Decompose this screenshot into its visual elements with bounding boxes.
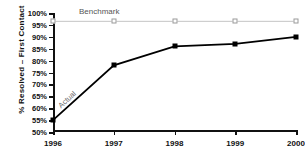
data-point-actual-1999 [233,41,238,46]
data-point-actual-1998 [172,44,177,49]
y-tick-label: 70% [32,80,47,89]
series-line-actual [53,37,296,120]
x-tick-label: 1999 [226,139,244,148]
data-point-benchmark-1997 [111,19,116,24]
x-tick-label: 1996 [44,139,62,148]
y-tick-label: 90% [32,32,47,41]
y-tick-label: 85% [32,44,47,53]
y-tick-label: 75% [32,68,47,77]
plot-area: 50%55%60%65%70%75%80%85%90%95%100% 19961… [53,13,296,132]
data-point-benchmark-1998 [172,19,177,24]
data-point-benchmark-2000 [294,19,299,24]
y-tick-label: 60% [32,104,47,113]
y-tick-label: 50% [32,128,47,137]
y-tick-label: 55% [32,116,47,125]
x-tick-mark [296,130,298,135]
x-tick-label: 1997 [105,139,123,148]
chart-container: % Resolved – First Contact 50%55%60%65%7… [0,0,305,157]
y-axis-title: % Resolved – First Contact [17,0,26,128]
y-tick-label: 80% [32,56,47,65]
data-point-actual-1997 [111,63,116,68]
y-tick-label: 65% [32,92,47,101]
data-point-actual-2000 [294,34,299,39]
data-point-actual-1996 [51,118,56,123]
data-point-benchmark-1999 [233,19,238,24]
data-point-benchmark-1996 [51,19,56,24]
y-tick-label: 100% [28,9,47,18]
x-tick-label: 1998 [166,139,184,148]
y-tick-label: 95% [32,20,47,29]
series-lines [53,13,296,132]
x-tick-label: 2000 [287,139,305,148]
benchmark-series-label: Benchmark [79,7,119,16]
